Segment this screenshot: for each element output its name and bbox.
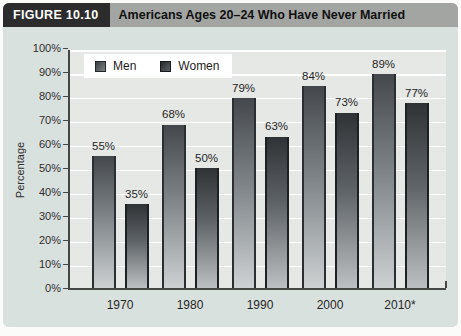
x-tick-label: 2000 bbox=[317, 298, 344, 312]
bar-value-label: 50% bbox=[195, 153, 218, 165]
y-tick-mark bbox=[63, 96, 68, 98]
x-tick-label: 1980 bbox=[177, 298, 204, 312]
legend-item-men: Men bbox=[95, 59, 136, 73]
legend: MenWomen bbox=[84, 54, 232, 78]
bar-women-2000 bbox=[335, 113, 359, 288]
y-tick-label: 40% bbox=[39, 187, 61, 198]
bar-women-1970 bbox=[125, 204, 149, 288]
y-tick-mark bbox=[63, 144, 68, 146]
bar-men-2010* bbox=[372, 74, 396, 288]
y-tick-label: 0% bbox=[45, 283, 61, 294]
bar-men-1990 bbox=[232, 98, 256, 288]
legend-label: Women bbox=[178, 59, 219, 73]
y-axis-title: Percentage bbox=[13, 50, 27, 290]
y-tick-label: 90% bbox=[39, 67, 61, 78]
figure-title: Americans Ages 20–24 Who Have Never Marr… bbox=[110, 3, 405, 27]
x-tick-label: 1990 bbox=[247, 298, 274, 312]
bar-value-label: 77% bbox=[405, 88, 428, 100]
legend-swatch-icon bbox=[160, 61, 171, 72]
y-tick-mark bbox=[63, 216, 68, 218]
y-tick-mark bbox=[63, 48, 68, 50]
bar-women-1980 bbox=[195, 168, 219, 288]
bar-value-label: 89% bbox=[372, 59, 395, 71]
legend-label: Men bbox=[113, 59, 136, 73]
chart-area: Percentage MenWomen 0%10%20%30%40%50%60%… bbox=[3, 27, 458, 327]
y-tick-label: 80% bbox=[39, 91, 61, 102]
y-tick-label: 50% bbox=[39, 163, 61, 174]
bar-women-2010* bbox=[405, 103, 429, 288]
x-tick-label: 2010* bbox=[384, 298, 415, 312]
figure-page: FIGURE 10.10 Americans Ages 20–24 Who Ha… bbox=[0, 0, 461, 336]
y-tick-mark bbox=[63, 288, 68, 290]
figure-number-label: FIGURE 10.10 bbox=[3, 3, 110, 27]
bar-men-1970 bbox=[92, 156, 116, 288]
bar-men-2000 bbox=[302, 86, 326, 288]
bar-value-label: 73% bbox=[335, 97, 358, 109]
figure-header: FIGURE 10.10 Americans Ages 20–24 Who Ha… bbox=[3, 3, 458, 27]
y-tick-mark bbox=[63, 192, 68, 194]
bar-value-label: 35% bbox=[125, 189, 148, 201]
x-axis-end-tick bbox=[445, 281, 447, 288]
figure-panel: FIGURE 10.10 Americans Ages 20–24 Who Ha… bbox=[3, 3, 458, 327]
y-tick-label: 30% bbox=[39, 211, 61, 222]
bar-value-label: 68% bbox=[162, 109, 185, 121]
x-tick-label: 1970 bbox=[107, 298, 134, 312]
y-tick-label: 20% bbox=[39, 235, 61, 246]
y-tick-label: 100% bbox=[33, 43, 61, 54]
bar-value-label: 63% bbox=[265, 121, 288, 133]
legend-swatch-icon bbox=[95, 61, 106, 72]
bar-value-label: 55% bbox=[92, 141, 115, 153]
plot-area: MenWomen 0%10%20%30%40%50%60%70%80%90%10… bbox=[68, 50, 446, 290]
bar-value-label: 79% bbox=[232, 83, 255, 95]
bar-men-1980 bbox=[162, 125, 186, 288]
bar-women-1990 bbox=[265, 137, 289, 288]
y-tick-mark bbox=[63, 72, 68, 74]
y-tick-mark bbox=[63, 264, 68, 266]
y-tick-mark bbox=[63, 240, 68, 242]
y-tick-mark bbox=[63, 168, 68, 170]
y-tick-mark bbox=[63, 120, 68, 122]
y-tick-label: 70% bbox=[39, 115, 61, 126]
y-tick-label: 60% bbox=[39, 139, 61, 150]
bar-value-label: 84% bbox=[302, 71, 325, 83]
y-tick-label: 10% bbox=[39, 259, 61, 270]
legend-item-women: Women bbox=[160, 59, 219, 73]
